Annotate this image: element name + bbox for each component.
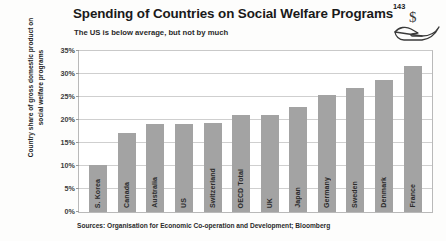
y-axis-title: Country share of gross domestic product … (26, 8, 45, 168)
bar-category-label: UK (266, 198, 273, 208)
chart-figure: Spending of Countries on Social Welfare … (0, 0, 446, 241)
y-tick-label: 15% (61, 138, 75, 147)
bar[interactable]: Germany (318, 95, 336, 212)
bar-category-label: Switzerland (209, 168, 216, 208)
bar[interactable]: Japan (289, 107, 307, 212)
bar-category-label: S. Korea (94, 179, 101, 208)
bar-slot: Germany (313, 51, 342, 212)
y-tick-label: 35% (61, 46, 75, 55)
plot-area: 0%5%10%15%20%25%30%35% S. KoreaCanadaAus… (78, 50, 433, 213)
bar-category-label: Denmark (380, 177, 387, 208)
chart-title: Spending of Countries on Social Welfare … (73, 6, 405, 21)
bar[interactable]: UK (261, 115, 279, 212)
bar[interactable]: Canada (118, 133, 136, 212)
bar-slot: Canada (113, 51, 142, 212)
bar-category-label: Germany (323, 177, 330, 208)
bar[interactable]: France (404, 66, 422, 212)
bar[interactable]: Australia (146, 124, 164, 212)
source-note: Sources: Organisation for Economic Co-op… (77, 222, 330, 229)
bar[interactable]: S. Korea (89, 165, 107, 212)
bar[interactable]: Switzerland (204, 123, 222, 212)
bar-slot: Denmark (370, 51, 399, 212)
y-tick-label: 20% (61, 115, 75, 124)
bar-category-label: Japan (294, 187, 301, 208)
bar-category-label: France (409, 184, 416, 208)
bar-category-label: US (180, 198, 187, 208)
bar[interactable]: US (175, 124, 193, 212)
bar-category-label: Canada (123, 182, 130, 208)
bar-slot: Australia (141, 51, 170, 212)
bar-slot: US (170, 51, 199, 212)
bar[interactable]: Sweden (346, 88, 364, 212)
bar[interactable]: Denmark (375, 80, 393, 212)
chart-title-text: Spending of Countries on Social Welfare … (73, 6, 393, 21)
y-tick-label: 5% (65, 184, 75, 193)
bar-slot: France (398, 51, 427, 212)
bar-slot: S. Korea (84, 51, 113, 212)
y-tick-label: 0% (65, 207, 75, 216)
hand-holding-dollar-icon: $ (392, 5, 442, 45)
chart-subtitle: The US is below average, but not by much (74, 28, 228, 37)
svg-text:$: $ (409, 9, 417, 25)
bar-slot: Switzerland (198, 51, 227, 212)
bar[interactable]: OECD Total (232, 115, 250, 212)
bar-slot: OECD Total (227, 51, 256, 212)
y-tick-label: 30% (61, 69, 75, 78)
bar-slot: Japan (284, 51, 313, 212)
y-tick-label: 25% (61, 92, 75, 101)
bar-category-label: OECD Total (237, 169, 244, 208)
bar-slot: UK (255, 51, 284, 212)
bar-category-label: Sweden (351, 181, 358, 208)
bar-category-label: Australia (151, 177, 158, 208)
y-tick-label: 10% (61, 161, 75, 170)
bar-slot: Sweden (341, 51, 370, 212)
bar-series: S. KoreaCanadaAustraliaUSSwitzerlandOECD… (79, 51, 432, 212)
